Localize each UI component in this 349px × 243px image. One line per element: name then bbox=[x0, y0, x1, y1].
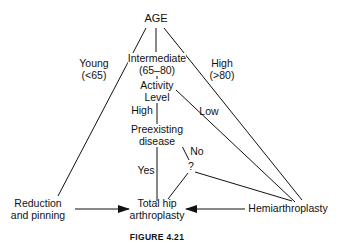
node-total-hip-line2: arthroplasty bbox=[130, 210, 185, 222]
branch-intermediate: Intermediate (65–80) bbox=[128, 53, 186, 76]
edge-label-no: No bbox=[190, 146, 203, 158]
branch-high-age-label: High bbox=[210, 58, 235, 70]
branch-intermediate-range: (65–80) bbox=[128, 65, 186, 77]
node-age: AGE bbox=[144, 13, 167, 25]
node-activity-line1: Activity bbox=[140, 80, 173, 92]
node-activity-level: Activity Level bbox=[140, 80, 173, 103]
branch-young-label: Young bbox=[79, 58, 108, 70]
branch-high-age: High (>80) bbox=[210, 58, 235, 81]
node-reduction-line2: and pinning bbox=[11, 210, 65, 222]
branch-young-range: (<65) bbox=[79, 70, 108, 82]
node-total-hip-arthroplasty: Total hip arthroplasty bbox=[130, 198, 185, 221]
branch-young: Young (<65) bbox=[79, 58, 108, 81]
node-hemiarthroplasty: Hemiarthroplasty bbox=[248, 203, 327, 215]
node-question: ? bbox=[188, 161, 194, 173]
node-reduction-pinning: Reduction and pinning bbox=[11, 198, 65, 221]
edge-label-yes: Yes bbox=[137, 165, 154, 177]
node-reduction-line1: Reduction bbox=[11, 198, 65, 210]
figure-caption: FIGURE 4.21 bbox=[130, 232, 184, 242]
edge-label-low: Low bbox=[199, 106, 218, 118]
node-preexisting-line2: disease bbox=[131, 136, 183, 148]
edge-label-high: High bbox=[131, 105, 153, 117]
node-activity-line2: Level bbox=[140, 92, 173, 104]
branch-high-age-range: (>80) bbox=[210, 70, 235, 82]
node-total-hip-line1: Total hip bbox=[130, 198, 185, 210]
node-preexisting-disease: Preexisting disease bbox=[131, 124, 183, 147]
node-preexisting-line1: Preexisting bbox=[131, 124, 183, 136]
branch-intermediate-label: Intermediate bbox=[128, 53, 186, 65]
